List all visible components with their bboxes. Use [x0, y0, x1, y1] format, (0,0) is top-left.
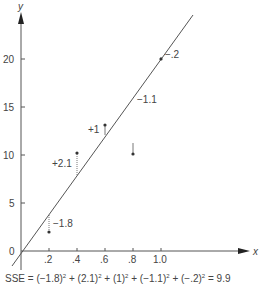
x-axis-arrow-icon	[238, 248, 250, 254]
x-tick-label: .4	[72, 254, 81, 265]
exponent: 2	[63, 273, 66, 279]
sse-term: (−.2)	[181, 273, 202, 284]
sse-result: 9.9	[217, 273, 231, 284]
y-ticks: 0 5 10 15 20	[3, 54, 25, 257]
y-tick-label: 15	[3, 102, 15, 113]
exponent: 2	[125, 273, 128, 279]
x-tick-label: .2	[44, 254, 53, 265]
exponent: 2	[98, 273, 101, 279]
x-tick-label: .6	[100, 254, 109, 265]
residual-label: +2.1	[52, 158, 72, 169]
y-axis-label: y	[17, 1, 24, 12]
data-point	[47, 230, 50, 233]
exponent: 2	[202, 273, 205, 279]
sse-term: (2.1)	[78, 273, 99, 284]
x-tick-label: .8	[128, 254, 137, 265]
data-point	[75, 151, 78, 154]
regression-plot: y x .2 .4 .6 .8 1.0 0 5 10 15 20	[0, 0, 260, 287]
y-tick-label: 5	[9, 198, 15, 209]
exponent: 2	[166, 273, 169, 279]
sse-term: (1)	[113, 273, 125, 284]
sse-term: (−1.1)	[140, 273, 166, 284]
y-tick-label: 10	[3, 150, 15, 161]
y-axis-arrow-icon	[18, 12, 24, 24]
y-tick-label: 0	[9, 246, 15, 257]
data-point	[131, 152, 134, 155]
data-point	[159, 57, 162, 60]
sse-equation: SSE = (−1.8)2 + (2.1)2 + (1)2 + (−1.1)2 …	[5, 273, 231, 284]
sse-prefix: SSE =	[5, 273, 36, 284]
residual-label: −1.8	[53, 218, 73, 229]
residual-label: −1.1	[137, 94, 157, 105]
x-tick-label: 1.0	[153, 254, 167, 265]
data-point	[103, 123, 106, 126]
x-axis-label: x	[252, 246, 259, 257]
sse-term: (−1.8)	[36, 273, 62, 284]
y-tick-label: 20	[3, 54, 15, 65]
residual-label: +1	[88, 124, 100, 135]
residual-label: −.2	[165, 49, 180, 60]
data-points	[47, 57, 162, 233]
